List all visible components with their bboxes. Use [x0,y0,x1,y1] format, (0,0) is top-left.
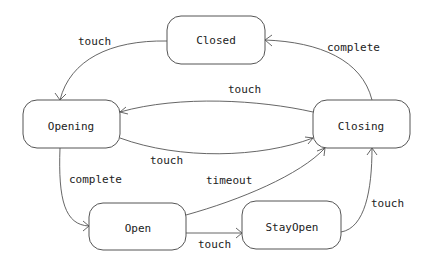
edge-label-opening-closing: touch [150,154,183,167]
edge-label-open-stayopen: touch [198,238,231,251]
state-label-closing: Closing [338,120,384,133]
state-stayopen: StayOpen [242,201,341,249]
state-closed: Closed [167,16,265,64]
edge-label-stayopen-closing: touch [371,197,404,210]
state-label-opening: Opening [48,120,94,133]
edge-open-to-stayopen [186,228,242,238]
edge-opening-to-closing [120,137,313,154]
edge-closed-to-opening [55,41,167,100]
edge-label-opening-open: complete [69,173,122,186]
edge-label-closed-opening: touch [78,35,111,48]
edge-label-closing-opening: touch [228,83,261,96]
state-diagram: touch complete touch touch complete time… [0,0,432,270]
edge-opening-to-open [60,148,89,231]
state-label-open: Open [125,222,152,235]
edge-label-open-closing: timeout [206,174,252,187]
state-closing: Closing [313,100,410,148]
edge-stayopen-to-closing [341,148,377,232]
edge-closing-to-opening [120,101,313,114]
state-opening: Opening [23,100,120,148]
state-open: Open [89,203,186,250]
state-label-stayopen: StayOpen [266,221,319,234]
edge-label-closing-closed: complete [327,41,380,54]
state-label-closed: Closed [196,34,236,47]
